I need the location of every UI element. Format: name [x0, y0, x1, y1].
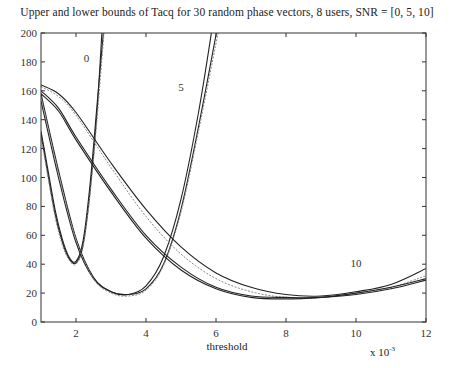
x-tick-label: 6	[213, 327, 219, 339]
plot-frame	[41, 33, 426, 322]
series-group	[41, 26, 426, 299]
x-axis-multiplier: x 10-3	[370, 345, 395, 358]
x-tick-label: 4	[143, 327, 149, 339]
series-line-snr-10	[41, 87, 426, 299]
curve-annotation: 0	[84, 52, 90, 64]
y-tick-label: 120	[21, 143, 38, 155]
x-tick-label: 10	[351, 327, 363, 339]
y-tick-label: 20	[26, 287, 38, 299]
x-tick-label: 12	[421, 327, 432, 339]
x-tick-label: 8	[283, 327, 289, 339]
x-tick-label: 2	[73, 327, 79, 339]
y-tick-label: 140	[21, 114, 38, 126]
y-tick-label: 80	[26, 200, 38, 212]
y-tick-label: 60	[26, 229, 38, 241]
curve-annotation: 10	[351, 257, 363, 269]
y-tick-label: 0	[32, 316, 38, 328]
y-tick-label: 160	[21, 85, 38, 97]
series-line-snr-10	[41, 91, 426, 298]
y-tick-label: 200	[21, 27, 38, 39]
y-tick-label: 180	[21, 56, 38, 68]
y-tick-label: 100	[21, 172, 38, 184]
series-line-snr-10	[41, 94, 426, 299]
line-chart: 020406080100120140160180200246810120510	[0, 0, 454, 368]
series-line-snr-10	[41, 85, 426, 296]
y-tick-label: 40	[26, 258, 38, 270]
x-multiplier-base: x 10	[370, 346, 389, 358]
curve-annotation: 5	[178, 81, 184, 93]
x-multiplier-exponent: -3	[389, 345, 395, 353]
